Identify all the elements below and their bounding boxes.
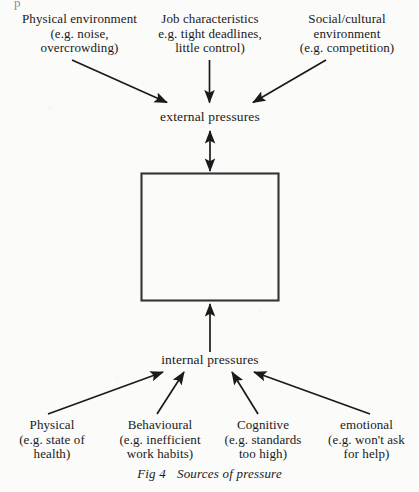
label-external-pressures: external pressures xyxy=(130,110,290,125)
label-physical-environment: Physical environment (e.g. noise, overcr… xyxy=(2,12,157,56)
central-box xyxy=(142,174,279,301)
figure-caption: Fig 4Sources of pressure xyxy=(0,466,419,482)
arrow-emotional xyxy=(254,372,370,414)
arrow-physical xyxy=(48,372,163,414)
figure-number: Fig 4 xyxy=(137,466,166,481)
arrow-behavioural xyxy=(157,372,184,414)
label-emotional: emotional (e.g. won't ask for help) xyxy=(314,418,419,462)
figure-title: Sources of pressure xyxy=(177,466,282,481)
label-social-cultural: Social/cultural environment (e.g. compet… xyxy=(276,12,418,56)
arrow-social-cultural xyxy=(253,60,326,103)
arrow-physical-environment xyxy=(72,60,167,103)
label-job-characteristics: Job characteristics e.g. tight deadlines… xyxy=(142,12,278,56)
label-cognitive: Cognitive (e.g. standards too high) xyxy=(209,418,317,462)
label-behavioural: Behavioural (e.g. inefficient work habit… xyxy=(104,418,216,462)
label-internal-pressures: internal pressures xyxy=(130,353,290,368)
figure-page: p Physical environment (e.g. noise, over… xyxy=(0,0,419,492)
label-physical: Physical (e.g. state of health) xyxy=(0,418,104,462)
arrow-cognitive xyxy=(232,372,258,414)
